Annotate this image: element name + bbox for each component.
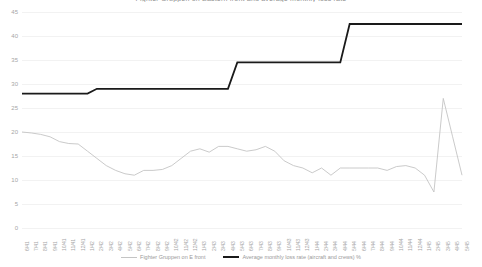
x-axis-tick-label: 1/42 — [90, 241, 95, 251]
x-axis-tick-label: 10/41 — [62, 238, 67, 251]
y-axis-tick-label: 15 — [2, 153, 18, 159]
x-axis-tick-label: 8/42 — [156, 241, 161, 251]
x-axis-tick-label: 5/45 — [465, 241, 470, 251]
x-axis-tick-label: 9/43 — [277, 241, 282, 251]
plot-area — [22, 12, 462, 228]
chart-container: Fighter Gruppen on Eastern front and ave… — [0, 0, 482, 267]
x-axis-tick-label: 7/44 — [371, 241, 376, 251]
y-axis-tick-label: 40 — [2, 33, 18, 39]
legend-item[interactable]: Average monthly loss rate (aircraft and … — [223, 254, 361, 260]
x-axis-tick-label: 12/44 — [418, 238, 423, 251]
chart-legend: Fighter Gruppen on E frontAverage monthl… — [0, 254, 482, 260]
legend-swatch-icon — [223, 256, 239, 258]
x-axis-tick-label: 11/41 — [71, 239, 76, 251]
x-axis-tick-label: 8/43 — [268, 241, 273, 251]
legend-swatch-icon — [121, 257, 137, 258]
x-axis-tick-label: 11/42 — [184, 239, 189, 251]
series-path — [22, 98, 462, 192]
series-path — [22, 24, 462, 94]
x-axis-tick-label: 1/45 — [427, 241, 432, 251]
x-axis-tick-label: 9/41 — [53, 241, 58, 251]
y-axis-tick-label: 10 — [2, 177, 18, 183]
x-axis-tick-label: 1/44 — [315, 241, 320, 251]
x-axis-tick-label: 6/44 — [362, 241, 367, 251]
x-axis-labels: 6/417/418/419/4110/4111/4112/411/422/423… — [22, 229, 462, 253]
x-axis-tick-label: 1/43 — [202, 241, 207, 251]
x-axis-tick-label: 4/44 — [343, 241, 348, 251]
x-axis-tick-label: 10/43 — [287, 238, 292, 251]
x-axis-tick-label: 2/44 — [324, 241, 329, 251]
x-axis-tick-label: 3/42 — [109, 241, 114, 251]
x-axis-tick-label: 6/43 — [249, 241, 254, 251]
x-axis-tick-label: 4/45 — [455, 241, 460, 251]
x-axis-tick-label: 5/42 — [128, 241, 133, 251]
x-axis-tick-label: 11/44 — [408, 239, 413, 251]
x-axis-tick-label: 7/42 — [146, 241, 151, 251]
x-axis-tick-label: 5/44 — [352, 241, 357, 251]
x-axis-tick-label: 9/44 — [390, 241, 395, 251]
series-lines — [22, 12, 462, 228]
y-axis-tick-label: 5 — [2, 201, 18, 207]
x-axis-tick-label: 3/44 — [333, 241, 338, 251]
x-axis-tick-label: 10/44 — [399, 238, 404, 251]
x-axis-tick-label: 6/41 — [25, 241, 30, 251]
x-axis-tick-label: 7/41 — [34, 241, 39, 251]
y-axis-tick-label: 45 — [2, 9, 18, 15]
x-axis-tick-label: 12/41 — [81, 238, 86, 251]
y-axis-tick-label: 20 — [2, 129, 18, 135]
x-axis-tick-label: 8/41 — [43, 241, 48, 251]
legend-label: Fighter Gruppen on E front — [140, 254, 205, 260]
x-axis-tick-label: 2/43 — [212, 241, 217, 251]
x-axis-tick-label: 5/43 — [240, 241, 245, 251]
y-axis-tick-label: 25 — [2, 105, 18, 111]
x-axis-tick-label: 12/42 — [193, 238, 198, 251]
y-axis-tick-label: 0 — [2, 225, 18, 231]
x-axis-tick-label: 3/45 — [446, 241, 451, 251]
legend-label: Average monthly loss rate (aircraft and … — [242, 254, 361, 260]
x-axis-tick-label: 3/43 — [221, 241, 226, 251]
x-axis-tick-label: 2/45 — [436, 241, 441, 251]
x-axis-tick-label: 12/43 — [305, 238, 310, 251]
y-axis-tick-label: 30 — [2, 81, 18, 87]
legend-item[interactable]: Fighter Gruppen on E front — [121, 254, 205, 260]
x-axis-tick-label: 2/42 — [99, 241, 104, 251]
x-axis-tick-label: 8/44 — [380, 241, 385, 251]
y-axis-tick-label: 35 — [2, 57, 18, 63]
x-axis-tick-label: 4/42 — [118, 241, 123, 251]
x-axis-tick-label: 4/43 — [231, 241, 236, 251]
x-axis-tick-label: 9/42 — [165, 241, 170, 251]
x-axis-tick-label: 11/43 — [296, 239, 301, 251]
x-axis-tick-label: 7/43 — [259, 241, 264, 251]
x-axis-tick-label: 6/42 — [137, 241, 142, 251]
x-axis-tick-label: 10/42 — [174, 238, 179, 251]
